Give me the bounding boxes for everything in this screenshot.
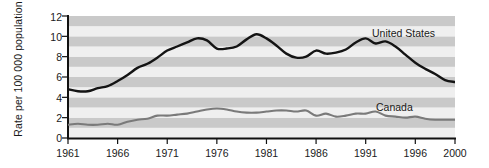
grid-band bbox=[68, 77, 455, 87]
x-tick-label-1961: 1961 bbox=[56, 147, 79, 159]
grid-band bbox=[68, 87, 455, 97]
x-tick-label-1986: 1986 bbox=[304, 147, 327, 159]
x-tick-label-2000: 2000 bbox=[443, 147, 466, 159]
x-tick-label-1971: 1971 bbox=[156, 147, 179, 159]
x-tick-label-1976: 1976 bbox=[205, 147, 228, 159]
x-tick-label-1996: 1996 bbox=[404, 147, 427, 159]
grid-band bbox=[68, 128, 455, 138]
series-label-united-states: United States bbox=[372, 27, 435, 39]
x-tick-label-1966: 1966 bbox=[106, 147, 129, 159]
homicide-rate-line-chart: Rate per 100 000 population 12 10 8 6 4 … bbox=[0, 0, 489, 168]
series-label-canada: Canada bbox=[376, 101, 413, 113]
grid-band bbox=[68, 16, 455, 26]
x-tick-label-1991: 1991 bbox=[354, 147, 377, 159]
x-tick-label-1981: 1981 bbox=[255, 147, 278, 159]
plot-area bbox=[0, 0, 489, 168]
grid-band bbox=[68, 57, 455, 67]
